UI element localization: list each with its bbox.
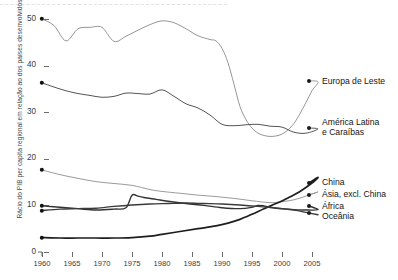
axis-origin-corner	[38, 252, 42, 256]
plot-area	[0, 0, 398, 280]
legend-label-1: América Latinae Caraíbas	[322, 118, 379, 137]
legend-label-0: Europa de Leste	[322, 77, 385, 87]
series-line-2	[42, 170, 318, 203]
legend-label-5: Oceânia	[322, 212, 354, 222]
legend-marker-dot	[307, 126, 311, 130]
legend-label-3: China	[322, 178, 344, 188]
legend-marker-dot	[307, 211, 311, 215]
series-line-0	[42, 19, 318, 136]
legend-marker-dot	[307, 181, 311, 185]
series-line-1	[42, 83, 318, 134]
legend-marker-dot	[307, 193, 311, 197]
legend-marker-dot	[307, 79, 311, 83]
legend-label-2: Ásia, excl. China	[322, 190, 386, 200]
legend-marker-dot	[307, 204, 311, 208]
chart-figure: – – – – – – – – – – – – – – – – – – – – …	[0, 0, 398, 280]
series-line-5	[42, 203, 318, 215]
